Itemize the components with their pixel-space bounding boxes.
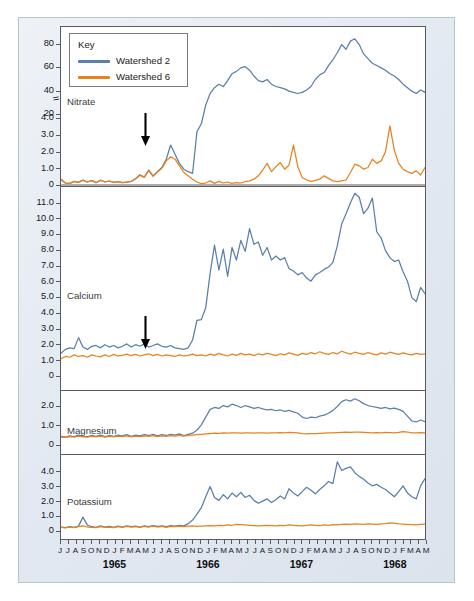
y-tick-mark xyxy=(56,266,61,267)
y-tick-nitrate: 20 xyxy=(20,109,54,118)
y-tick-nitrate: 2.0 xyxy=(20,147,54,156)
x-tick-mark xyxy=(340,540,341,544)
y-tick-mark xyxy=(56,44,61,45)
y-tick-mark xyxy=(56,486,61,487)
deforestation-arrow-nitrate xyxy=(140,113,151,147)
x-tick-mark xyxy=(325,540,326,544)
y-tick-mark xyxy=(56,168,61,169)
y-tick-mark xyxy=(56,531,61,532)
x-tick-mark xyxy=(418,540,419,544)
y-tick-magnesium: 2.0 xyxy=(20,401,54,410)
y-tick-mark xyxy=(56,152,61,153)
calcium-series-svg xyxy=(61,187,425,390)
y-tick-mark xyxy=(56,203,61,204)
y-tick-potassium: 3.0 xyxy=(20,482,54,491)
potassium-series-svg xyxy=(61,455,425,539)
x-tick-mark xyxy=(83,540,84,544)
panel-potassium xyxy=(60,454,426,540)
legend-label-watershed-6: Watershed 6 xyxy=(116,71,170,82)
y-tick-calcium: 10.0 xyxy=(20,214,54,223)
panel-label-magnesium: Magnesium xyxy=(67,425,117,436)
panel-label-calcium: Calcium xyxy=(67,290,102,301)
y-tick-calcium: 9.0 xyxy=(20,229,54,238)
x-tick-mark xyxy=(395,540,396,544)
x-tick-mark xyxy=(231,540,232,544)
down-arrow-icon xyxy=(140,316,151,350)
panel-magnesium-plot xyxy=(61,391,425,454)
y-tick-potassium: 2.0 xyxy=(20,497,54,506)
y-tick-mark xyxy=(56,329,61,330)
x-tick-mark xyxy=(255,540,256,544)
x-tick-mark xyxy=(68,540,69,544)
y-tick-calcium: 11.0 xyxy=(20,198,54,207)
x-tick-mark xyxy=(410,540,411,544)
x-tick-mark xyxy=(333,540,334,544)
y-tick-nitrate: 0 xyxy=(20,180,54,189)
x-tick-mark xyxy=(270,540,271,544)
panel-potassium-plot xyxy=(61,455,425,539)
x-tick-mark xyxy=(239,540,240,544)
y-tick-calcium: 5.0 xyxy=(20,292,54,301)
x-tick-mark xyxy=(426,540,427,544)
x-tick-mark xyxy=(356,540,357,544)
x-tick-mark xyxy=(294,540,295,544)
legend-title: Key xyxy=(78,39,95,50)
x-tick-mark xyxy=(262,540,263,544)
x-tick-mark xyxy=(177,540,178,544)
x-tick-mark xyxy=(379,540,380,544)
y-tick-calcium: 4.0 xyxy=(20,308,54,317)
legend-key-box: Key Watershed 2 Watershed 6 xyxy=(69,33,188,87)
x-tick-mark xyxy=(153,540,154,544)
y-tick-calcium: 2.0 xyxy=(20,340,54,349)
y-tick-mark xyxy=(56,185,61,186)
y-tick-calcium: 7.0 xyxy=(20,261,54,270)
y-tick-nitrate: 60 xyxy=(20,62,54,71)
x-axis: JJASONDJFMAMJJASONDJFMAMJJASONDJFMAMJJAS… xyxy=(60,540,426,548)
y-tick-calcium: 0 xyxy=(20,371,54,380)
y-tick-mark xyxy=(56,91,61,92)
x-tick-mark xyxy=(122,540,123,544)
y-tick-nitrate: 3.0 xyxy=(20,130,54,139)
legend-label-watershed-2: Watershed 2 xyxy=(116,55,170,66)
x-tick-mark xyxy=(286,540,287,544)
figure-root: Concentration (mg/liter) Nitrate ≈ Calci… xyxy=(0,0,474,601)
y-tick-potassium: 0 xyxy=(20,526,54,535)
x-tick-mark xyxy=(130,540,131,544)
x-year-label: 1967 xyxy=(279,558,323,570)
x-tick-mark xyxy=(278,540,279,544)
y-tick-mark xyxy=(56,234,61,235)
y-tick-mark xyxy=(56,218,61,219)
x-tick-mark xyxy=(309,540,310,544)
y-tick-mark xyxy=(56,344,61,345)
x-tick-mark xyxy=(216,540,217,544)
x-tick-mark xyxy=(169,540,170,544)
y-tick-calcium: 3.0 xyxy=(20,324,54,333)
y-tick-mark xyxy=(56,313,61,314)
panel-label-potassium: Potassium xyxy=(67,496,112,507)
x-tick-mark xyxy=(91,540,92,544)
magnesium-series-svg xyxy=(61,391,425,454)
y-tick-mark xyxy=(56,135,61,136)
y-tick-mark xyxy=(56,67,61,68)
deforestation-arrow-calcium xyxy=(140,316,151,350)
legend-swatch-watershed-6 xyxy=(78,76,110,79)
y-tick-mark xyxy=(56,425,61,426)
x-year-label: 1966 xyxy=(186,558,230,570)
y-tick-mark xyxy=(56,516,61,517)
y-tick-mark xyxy=(56,445,61,446)
y-tick-mark xyxy=(56,281,61,282)
panel-magnesium xyxy=(60,390,426,454)
y-tick-nitrate: 1.0 xyxy=(20,164,54,173)
legend-swatch-watershed-2 xyxy=(78,60,110,63)
x-tick-mark xyxy=(107,540,108,544)
x-tick-mark xyxy=(185,540,186,544)
y-tick-mark xyxy=(56,406,61,407)
y-tick-nitrate: 80 xyxy=(20,39,54,48)
x-tick-mark xyxy=(99,540,100,544)
x-tick-mark xyxy=(403,540,404,544)
y-tick-mark xyxy=(56,501,61,502)
x-month-label: M xyxy=(421,546,431,555)
y-tick-mark xyxy=(56,471,61,472)
x-tick-mark xyxy=(387,540,388,544)
x-year-label: 1965 xyxy=(93,558,137,570)
